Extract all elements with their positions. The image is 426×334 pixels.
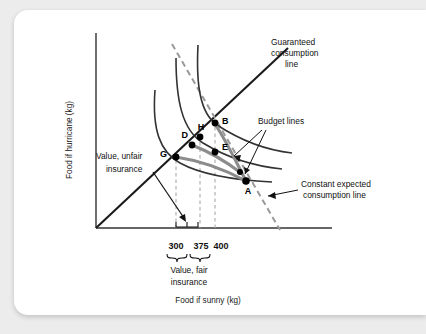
indifference-curve-mid [176,58,282,169]
point-unlabeled-budget-intersection[interactable] [237,169,243,175]
indifference-curve-high [198,45,292,153]
annotation-value-fair-insurance: Value, fair insurance [170,265,207,287]
point-G[interactable] [173,154,180,161]
annotation-budget-lines: Budget lines [234,116,304,174]
x-axis-label: Food if sunny (kg) [175,296,241,305]
constant-expected-arrowhead [268,192,276,199]
tick-label-300: 300 [168,241,183,251]
indifference-curve-low [154,90,272,182]
value-fair-text-1: Value, fair [170,265,207,275]
guaranteed-line-text-3: line [285,59,298,69]
value-unfair-text-2: insurance [106,164,143,174]
value-unfair-leader [153,172,184,218]
point-H[interactable] [197,134,204,141]
point-B[interactable] [212,120,219,127]
value-fair-text-2: insurance [171,277,208,287]
constant-expected-text-2: consumption line [303,190,366,200]
tick-label-400: 400 [213,241,228,251]
point-D[interactable] [189,142,196,149]
budget-lines-arrowhead-2 [244,167,250,174]
guaranteed-consumption-line [96,48,288,228]
point-label-A: A [245,186,252,196]
budget-lines-leader-1 [234,130,262,156]
point-label-B: B [222,116,229,126]
point-label-H: H [198,122,205,132]
brace-fair-insurance-right [190,254,210,262]
y-axis-label: Food if hurricane (kg) [65,101,74,179]
point-A[interactable] [242,177,250,185]
guaranteed-line-text-1: Guaranteed [271,37,316,47]
point-label-E: E [222,142,228,152]
constant-expected-text-1: Constant expected [301,179,371,189]
budget-lines-text: Budget lines [258,116,304,126]
guaranteed-line-text-2: consumption [271,48,319,58]
point-E[interactable] [212,149,219,156]
point-label-D: D [182,130,189,140]
brace-fair-insurance [167,254,187,262]
brace-unfair-insurance [176,222,198,227]
tick-label-375: 375 [193,241,208,251]
point-label-G: G [160,149,167,159]
annotation-constant-expected-consumption-line: Constant expected consumption line [268,179,371,200]
annotation-guaranteed-consumption-line: Guaranteed consumption line [271,37,319,69]
vertical-guides-group [176,127,215,228]
value-unfair-text-1: Value, unfair [96,151,143,161]
